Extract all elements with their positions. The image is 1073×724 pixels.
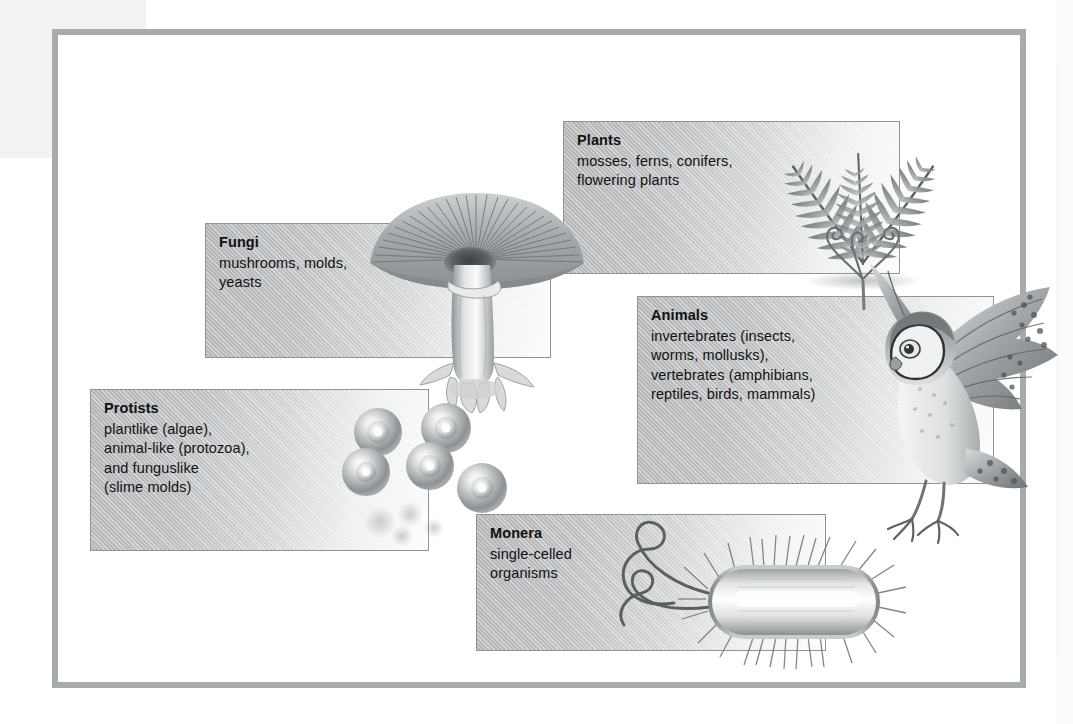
- page-right-margin: [1057, 0, 1073, 724]
- panel-title-plants: Plants: [577, 131, 891, 151]
- panel-text-protists: Protists plantlike (algae), animal-like …: [104, 399, 420, 498]
- panel-description-monera: single-celled organisms: [490, 545, 817, 584]
- panel-description-fungi: mushrooms, molds, yeasts: [219, 254, 542, 293]
- panel-text-fungi: Fungi mushrooms, molds, yeasts: [219, 233, 542, 293]
- panel-title-animals: Animals: [651, 306, 985, 326]
- kingdom-panel-animals[interactable]: Animals invertebrates (insects, worms, m…: [637, 296, 994, 484]
- panel-title-protists: Protists: [104, 399, 420, 419]
- panel-title-monera: Monera: [490, 524, 817, 544]
- figure-frame: Plants mosses, ferns, conifers, flowerin…: [52, 29, 1026, 688]
- panel-title-fungi: Fungi: [219, 233, 542, 253]
- kingdom-panel-plants[interactable]: Plants mosses, ferns, conifers, flowerin…: [563, 121, 900, 274]
- panel-description-animals: invertebrates (insects, worms, mollusks)…: [651, 327, 985, 405]
- panel-text-animals: Animals invertebrates (insects, worms, m…: [651, 306, 985, 405]
- page-right-hairline: [1057, 60, 1058, 660]
- panel-text-monera: Monera single-celled organisms: [490, 524, 817, 584]
- kingdom-panel-fungi[interactable]: Fungi mushrooms, molds, yeasts: [205, 223, 551, 358]
- panel-description-plants: mosses, ferns, conifers, flowering plant…: [577, 152, 891, 191]
- kingdom-panel-monera[interactable]: Monera single-celled organisms: [476, 514, 826, 651]
- kingdom-panel-protists[interactable]: Protists plantlike (algae), animal-like …: [90, 389, 429, 551]
- panel-description-protists: plantlike (algae), animal-like (protozoa…: [104, 420, 420, 498]
- panel-text-plants: Plants mosses, ferns, conifers, flowerin…: [577, 131, 891, 191]
